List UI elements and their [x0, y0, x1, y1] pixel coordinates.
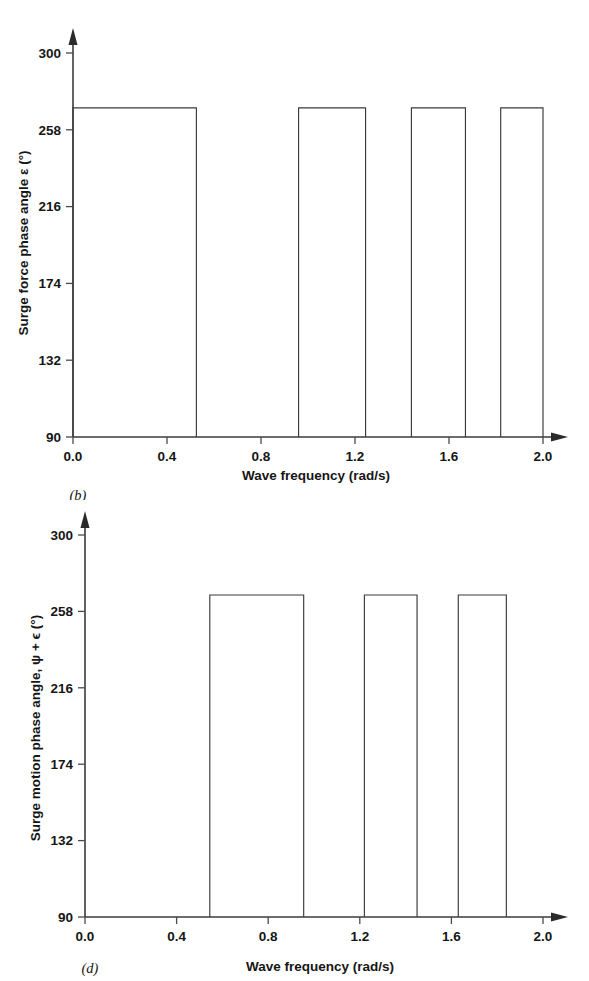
y-tick-label-d-0: 90 [58, 910, 73, 925]
x-tick-label-d-0: 0.0 [76, 929, 95, 944]
y-tick-label-b-3: 216 [38, 199, 61, 214]
panel-label-d: (d) [82, 960, 99, 977]
chart-b-y-tick-labels: 90132174216258300 [38, 46, 61, 445]
x-axis-title-d: Wave frequency (rad/s) [246, 959, 394, 974]
chart-b-canvas: 90132174216258300 0.00.40.81.21.62.0 Sur… [0, 0, 589, 500]
chart-b-y-ticks [66, 53, 73, 437]
x-tick-label-b-0: 0.0 [64, 449, 83, 464]
x-tick-label-b-4: 1.6 [440, 449, 459, 464]
series-segment-b-0 [73, 108, 196, 437]
y-axis-title-suffix-b: (°) [16, 150, 31, 168]
chart-d-x-ticks [85, 917, 543, 924]
x-tick-label-d-3: 1.2 [350, 929, 369, 944]
chart-d-axes [81, 511, 569, 922]
x-tick-label-b-1: 0.4 [158, 449, 177, 464]
y-axis-arrowhead-d [81, 511, 90, 528]
series-segment-b-1 [299, 108, 366, 437]
chart-b-x-tick-labels: 0.00.40.81.21.62.0 [64, 449, 553, 464]
y-tick-label-b-0: 90 [46, 430, 61, 445]
x-tick-label-d-4: 1.6 [442, 929, 461, 944]
series-segment-b-3 [501, 108, 543, 437]
y-axis-title-prefix-d: Surge motion phase angle, [28, 665, 43, 841]
y-axis-title-prefix-b: Surge force phase angle [16, 175, 31, 336]
chart-d-x-tick-labels: 0.00.40.81.21.62.0 [76, 929, 553, 944]
y-tick-label-d-5: 300 [50, 528, 73, 543]
chart-b-x-ticks [73, 437, 543, 444]
chart-d-y-ticks [78, 535, 85, 917]
y-axis-title-b: Surge force phase angle ε (°) [16, 150, 31, 335]
x-axis-arrowhead-d [551, 913, 568, 922]
y-axis-title-suffix-d: (°) [28, 615, 43, 633]
y-tick-label-b-5: 300 [38, 46, 61, 61]
chart-d-y-tick-labels: 90132174216258300 [50, 528, 73, 925]
y-tick-label-b-2: 174 [38, 276, 61, 291]
chart-b-series [73, 108, 543, 437]
x-tick-label-d-1: 0.4 [167, 929, 186, 944]
y-axis-title-symbol-d: ψ + ϵ [28, 633, 43, 665]
x-tick-label-b-5: 2.0 [534, 449, 553, 464]
series-segment-d-0 [210, 595, 304, 917]
x-tick-label-b-3: 1.2 [346, 449, 365, 464]
x-axis-title-b: Wave frequency (rad/s) [242, 468, 390, 483]
series-segment-b-2 [411, 108, 465, 437]
x-tick-label-b-2: 0.8 [252, 449, 271, 464]
chart-d-canvas: 90132174216258300 0.00.40.81.21.62.0 Sur… [0, 490, 589, 981]
y-tick-label-d-1: 132 [50, 833, 73, 848]
x-axis-arrowhead-b [551, 433, 568, 442]
y-tick-label-d-3: 216 [50, 681, 73, 696]
x-tick-label-d-2: 0.8 [259, 929, 278, 944]
y-tick-label-b-1: 132 [38, 353, 61, 368]
y-axis-arrowhead-b [69, 28, 78, 45]
y-tick-label-d-4: 258 [50, 604, 73, 619]
y-axis-title-d: Surge motion phase angle, ψ + ϵ (°) [28, 615, 43, 841]
chart-b-axes [69, 28, 569, 442]
x-tick-label-d-5: 2.0 [534, 929, 553, 944]
chart-panel-b: 90132174216258300 0.00.40.81.21.62.0 Sur… [0, 0, 589, 500]
y-tick-label-d-2: 174 [50, 757, 73, 772]
series-segment-d-2 [458, 595, 506, 917]
chart-d-series [210, 595, 507, 917]
chart-panel-d: 90132174216258300 0.00.40.81.21.62.0 Sur… [0, 490, 589, 981]
series-segment-d-1 [364, 595, 417, 917]
y-tick-label-b-4: 258 [38, 123, 61, 138]
